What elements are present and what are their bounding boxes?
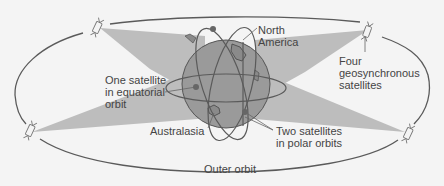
label-line: orbit <box>105 98 166 110</box>
polar-satellite-bottom <box>242 109 248 115</box>
label-line: satellites <box>339 79 420 91</box>
label-geosynchronous: Four geosynchronous satellites <box>339 55 420 91</box>
polar-satellite-top <box>210 26 216 32</box>
label-equatorial: One satellite in equatorial orbit <box>105 74 166 110</box>
label-north-america: North America <box>258 24 298 48</box>
label-line: Four <box>339 55 420 67</box>
label-polar: Two satellites in polar orbits <box>276 125 342 149</box>
label-line: North <box>258 24 298 36</box>
label-line: Two satellites <box>276 125 342 137</box>
satellite-orbit-diagram <box>0 0 444 186</box>
satellite-top-left <box>90 18 103 38</box>
label-line: in equatorial <box>105 86 166 98</box>
label-line: geosynchronous <box>339 67 420 79</box>
label-line: America <box>258 36 298 48</box>
satellite-bottom-right <box>401 124 414 144</box>
label-outer-orbit: Outer orbit <box>204 163 256 175</box>
label-australasia: Australasia <box>150 125 204 137</box>
label-line: One satellite <box>105 74 166 86</box>
label-line: in polar orbits <box>276 137 342 149</box>
